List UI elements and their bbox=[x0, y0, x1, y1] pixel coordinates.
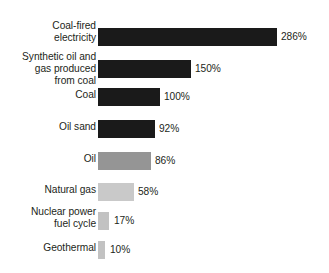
bar-fill bbox=[98, 88, 160, 106]
bar-fill bbox=[98, 28, 277, 46]
bar-oil-sand bbox=[98, 120, 155, 138]
bar-coal bbox=[98, 88, 160, 106]
value-label-oil-sand: 92% bbox=[159, 120, 179, 137]
bar-natural-gas bbox=[98, 183, 134, 201]
value-label-coal: 100% bbox=[164, 88, 190, 105]
category-label-natural-gas: Natural gas bbox=[0, 184, 96, 196]
bar-geothermal bbox=[98, 241, 105, 259]
value-label-nuclear-power-fuel-cycle: 17% bbox=[114, 212, 134, 229]
bar-fill bbox=[98, 183, 134, 201]
bar-fill bbox=[98, 241, 105, 259]
value-label-coal-fired-electricity: 286% bbox=[281, 28, 307, 45]
value-label-synthetic-oil-and-gas-produced-from-coal: 150% bbox=[195, 60, 221, 77]
value-label-geothermal: 10% bbox=[110, 241, 130, 258]
bar-fill bbox=[98, 60, 191, 78]
category-label-geothermal: Geothermal bbox=[0, 242, 96, 254]
category-label-oil-sand: Oil sand bbox=[0, 121, 96, 133]
bar-nuclear-power-fuel-cycle bbox=[98, 212, 109, 230]
bar-fill bbox=[98, 120, 155, 138]
bar-synthetic-oil-and-gas-produced-from-coal bbox=[98, 60, 191, 78]
category-label-nuclear-power-fuel-cycle: Nuclear power fuel cycle bbox=[0, 206, 96, 230]
category-label-coal-fired-electricity: Coal-fired electricity bbox=[0, 20, 96, 44]
category-label-coal: Coal bbox=[0, 89, 96, 101]
value-label-oil: 86% bbox=[155, 152, 175, 169]
bar-coal-fired-electricity bbox=[98, 28, 277, 46]
value-label-natural-gas: 58% bbox=[138, 183, 158, 200]
bar-oil bbox=[98, 152, 151, 170]
category-label-synthetic-oil-and-gas-produced-from-coal: Synthetic oil and gas produced from coal bbox=[0, 51, 96, 88]
bar-fill bbox=[98, 212, 109, 230]
category-label-oil: Oil bbox=[0, 153, 96, 165]
bar-fill bbox=[98, 152, 151, 170]
horizontal-bar-chart: Coal-fired electricity 286% Synthetic oi… bbox=[0, 0, 329, 273]
